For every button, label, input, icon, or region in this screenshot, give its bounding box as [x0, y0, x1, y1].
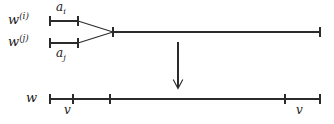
label-a-j-subscript: j — [63, 52, 66, 62]
branch-i-group — [50, 16, 113, 32]
diagram-canvas — [0, 0, 334, 124]
label-w-i-base: w — [8, 12, 19, 27]
label-v-right: v — [296, 104, 303, 116]
label-w-j-superscript: (j) — [19, 33, 29, 43]
merge-diagram-figure: w(i) w(j) w ai aj v v — [0, 0, 334, 124]
label-w-base: w — [26, 90, 37, 105]
branch-i-diagonal — [78, 21, 113, 32]
bottom-line-group — [50, 94, 320, 104]
label-w-j-base: w — [8, 34, 19, 49]
label-w-superscript-i: w(i) — [8, 12, 29, 26]
label-w-i-superscript: (i) — [19, 11, 29, 21]
label-w-superscript-j: w(j) — [8, 34, 29, 48]
branch-j-diagonal — [78, 32, 113, 43]
label-a-i-subscript: i — [63, 6, 66, 16]
label-v-left: v — [64, 104, 71, 116]
merged-line-group — [113, 27, 320, 37]
label-w: w — [26, 91, 37, 104]
label-a-subscript-j: aj — [56, 47, 66, 62]
label-a-subscript-i: ai — [56, 1, 66, 16]
down-arrow-icon — [173, 42, 183, 89]
